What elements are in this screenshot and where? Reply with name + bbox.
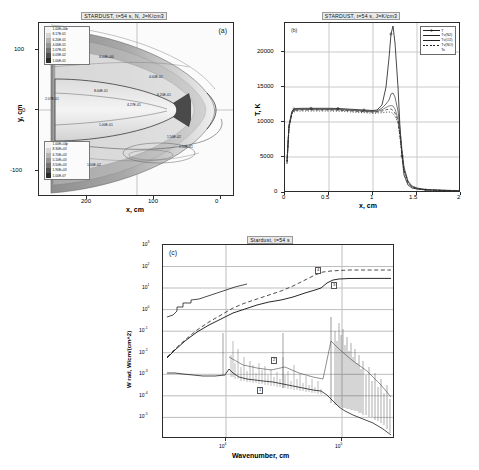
panel-c-curve-tag-3: 3	[331, 282, 337, 289]
panel-c-ytick-2: 101	[142, 283, 149, 290]
panel-c-ylabel: W rad, W/cm/(cm^2)	[126, 331, 132, 388]
panel-c-title: Stardust, t=54 s	[247, 236, 293, 244]
legend-row-4: Te	[423, 48, 453, 53]
panel-c-ytick-6: 10-3	[139, 369, 148, 376]
cb-bot-label-2: 6.70E+03	[53, 154, 67, 157]
legend-line-tvno	[423, 44, 440, 47]
panel-c-curve-tag-1: 1	[257, 387, 263, 394]
legend-line-t	[423, 29, 440, 32]
panel-c-ytick-8: 10-5	[139, 412, 148, 419]
cb-bot-label-5: 1.90E+03	[53, 169, 67, 172]
contour-label-9: 1.00E-02	[87, 163, 101, 167]
panel-b-ytick-4: 20000	[257, 48, 274, 54]
panel-b-id: (b)	[291, 27, 297, 33]
panel-b-ytick-3: 15000	[257, 83, 274, 89]
contour-label-8: 1.50E-01	[179, 145, 193, 149]
legend-line-tvn2	[423, 34, 440, 37]
contour-label-4: 4.27E-01	[127, 103, 141, 107]
panel-a-title: STARDUST, t=54 s, N, J=K/cm3	[81, 12, 167, 20]
cb-top-label-6: 1.00E-01	[53, 60, 67, 63]
colorbar-bottom-title: p	[66, 142, 68, 146]
panel-c-spectrum	[163, 245, 394, 438]
panel-b-ytick-2: 10000	[257, 118, 274, 124]
panel-c-xtick-1: 105	[335, 442, 342, 449]
panel-a-id: (a)	[218, 27, 227, 34]
panel-a-ytick-0: 100	[14, 46, 24, 52]
cb-bot-label-6: 1.00E-07	[53, 175, 67, 178]
panel-c-radiation-spectrum: Stardust, t=54 s	[120, 228, 420, 468]
panel-b-xlabel: x, cm	[359, 202, 377, 209]
panel-b-legend: T Tv(N2) Tv(O2) Tv(NO) Te	[420, 26, 456, 55]
colorbar-top-labels: 1.00E+00 8.17E-01 6.20E-01 4.06E-01 2.07…	[51, 28, 67, 63]
panel-c-xlabel: Wavenumber, cm	[232, 452, 289, 459]
cb-top-label-0: 1.00E+00	[53, 28, 67, 31]
cb-top-label-3: 4.06E-01	[53, 44, 67, 47]
panel-c-curve-tag-2: 2	[271, 357, 277, 364]
panel-a-colorbar-bottom: p 1.00E+04 8.30E+03 6.70E+03 5.10E+03 3.…	[44, 141, 90, 180]
contour-label-6: 1.00E-01	[99, 123, 113, 127]
legend-marker-icon	[430, 29, 433, 32]
panel-b-title-wrap: STARDUST, t=54 s, J=K/cm3	[250, 4, 472, 22]
panel-b-ylabel: T, K	[254, 104, 261, 116]
panel-b-ytick-1: 5000	[260, 153, 273, 159]
panel-a-xtick-2: 0	[215, 198, 218, 204]
cb-top-label-2: 6.20E-01	[53, 39, 67, 42]
contour-label-5: 2.07E-01	[45, 97, 59, 101]
cb-bot-label-0: 1.00E+04	[53, 143, 67, 146]
panel-b-ytick-0: 0	[274, 188, 277, 194]
panel-a-plot-area: n 1.00E+00 8.17E-01 6.20E-01 4.06E-01 2.…	[38, 22, 234, 196]
cb-top-label-1: 8.17E-01	[53, 33, 67, 36]
legend-label-4: Te	[441, 48, 445, 53]
cb-bot-label-3: 5.10E+03	[53, 159, 67, 162]
cb-top-label-4: 2.07E-01	[53, 49, 67, 52]
panel-c-ytick-5: 10-2	[139, 348, 148, 355]
panel-a-colorbar-top: n 1.00E+00 8.17E-01 6.20E-01 4.06E-01 2.…	[44, 26, 90, 65]
panel-c-plot-area: 4 3 2 1 (c)	[162, 244, 394, 438]
panel-c-xtick-0: 104	[219, 442, 226, 449]
panel-c-id: (c)	[169, 249, 177, 256]
panel-a-xlabel: x, cm	[126, 206, 144, 213]
panel-a-flowfield: STARDUST, t=54 s, N, J=K/cm3	[8, 4, 240, 216]
panel-c-ytick-4: 10-1	[139, 326, 148, 333]
cb-bot-label-1: 8.30E+03	[53, 148, 67, 151]
panel-b-temperature: STARDUST, t=54 s, J=K/cm3	[250, 4, 472, 216]
panel-b-plot-area: T Tv(N2) Tv(O2) Tv(NO) Te (b)	[284, 22, 460, 192]
cb-top-label-5: 6.03E-02	[53, 54, 67, 57]
legend-line-te	[423, 49, 440, 52]
contour-label-0: 4.00E+00	[99, 55, 114, 59]
panel-a-title-wrap: STARDUST, t=54 s, N, J=K/cm3	[8, 4, 240, 22]
contour-label-1: 4.00E-01	[149, 75, 163, 79]
panel-c-ytick-0: 103	[142, 240, 149, 247]
colorbar-top-title: n	[66, 27, 68, 31]
panel-c-ytick-3: 100	[142, 305, 149, 312]
cb-bot-label-4: 3.50E+03	[53, 164, 67, 167]
contour-label-3: 6.20E-01	[157, 93, 171, 97]
colorbar-bottom-labels: 1.00E+04 8.30E+03 6.70E+03 5.10E+03 3.50…	[51, 143, 67, 178]
panel-b-title: STARDUST, t=54 s, J=K/cm3	[322, 12, 400, 20]
contour-label-7: 1.50E-02	[167, 135, 181, 139]
contour-label-2: 8.00E-01	[94, 89, 108, 93]
legend-line-tvo2	[423, 39, 440, 42]
panel-a-ylabel: y, cm	[16, 105, 23, 122]
panel-c-ytick-7: 10-4	[139, 391, 148, 398]
panel-c-curve-tag-4: 4	[315, 267, 321, 274]
panel-a-ytick-2: -100	[10, 167, 22, 173]
panel-c-ytick-1: 102	[142, 262, 149, 269]
